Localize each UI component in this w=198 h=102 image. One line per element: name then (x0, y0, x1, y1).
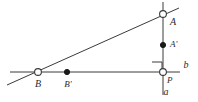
point-B-prime-marker (64, 69, 69, 74)
point-A-prime-marker (160, 42, 165, 47)
label-point-B-prime: B' (64, 79, 72, 89)
label-point-A-prime: A' (169, 39, 178, 49)
geometry-figure: A A' B B' P b a (0, 0, 198, 102)
label-point-A: A (169, 16, 177, 27)
axis-label-b: b (184, 59, 189, 70)
label-point-B: B (35, 78, 41, 89)
transversal-line (7, 8, 179, 85)
point-P-marker (160, 69, 167, 76)
axis-label-a: a (164, 86, 169, 97)
figure-canvas: A A' B B' P b a (0, 0, 198, 102)
label-point-P: P (166, 75, 173, 85)
point-A-marker (160, 11, 167, 18)
point-B-marker (35, 69, 42, 76)
